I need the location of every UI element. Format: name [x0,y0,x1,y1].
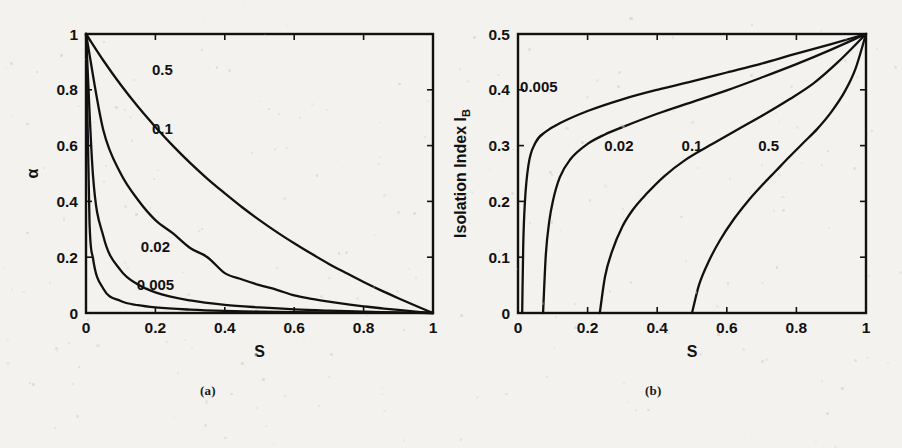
y-tick-label: 1 [69,26,78,43]
scan-speckle [805,80,807,82]
scan-speckle [466,80,469,83]
data-curve [600,34,866,313]
scan-speckle [629,17,632,20]
scan-speckle [574,303,575,304]
scan-speckle [265,425,267,427]
scan-speckle [424,136,426,138]
scan-speckle [99,187,100,188]
scan-speckle [647,409,650,412]
scan-speckle [224,437,227,440]
scan-speckle [550,221,553,224]
x-tick-label: 0 [82,319,91,336]
scan-speckle [72,383,74,385]
scan-speckle [177,372,179,374]
scan-speckle [729,178,731,180]
scan-speckle [256,407,258,409]
scan-speckle [373,286,374,287]
scan-speckle [29,382,31,384]
scan-speckle [191,348,192,349]
x-tick-label: 0 [514,319,523,336]
scan-speckle [379,156,382,159]
y-axis-label-text: Isolation Index I [452,117,469,238]
scan-speckle [396,290,399,293]
y-tick-label: 0.5 [488,26,510,43]
y-tick-label: 0.8 [56,81,78,98]
curve-label: 0.1 [682,137,703,154]
scan-speckle [328,376,330,378]
scan-speckle [124,205,126,207]
scan-speckle [204,424,207,427]
scan-speckle [695,291,698,294]
y-tick-label: 0 [501,305,510,322]
scan-speckle [286,147,288,149]
scan-speckle [138,98,140,100]
scan-speckle [153,178,155,180]
scan-speckle [356,297,358,299]
curve-label: 0.005 [137,276,175,293]
x-tick-label: 0.8 [786,319,808,336]
scan-speckle [546,376,548,378]
scan-speckle [623,382,625,384]
scan-speckle [697,167,699,169]
scan-speckle [212,309,213,310]
scan-speckle [691,121,694,124]
scan-speckle [560,230,562,232]
scan-speckle [403,439,406,442]
scan-speckle [36,71,38,73]
scan-speckle [68,342,70,344]
scan-speckle [171,72,173,74]
scan-speckle [635,409,638,412]
x-tick-label: 0.4 [646,319,668,336]
scan-speckle [198,230,199,231]
scan-speckle [283,197,286,200]
scan-speckle [801,162,803,164]
scan-speckle [667,332,669,334]
scan-speckle [78,366,80,368]
scan-speckle [103,41,105,43]
scan-speckle [790,85,793,88]
curve-label: 0.005 [520,78,558,95]
y-tick-label: 0.4 [488,81,510,98]
scan-speckle [254,354,256,356]
scan-speckle [761,282,763,284]
scan-speckle [866,357,868,359]
scan-speckle [415,277,417,279]
scan-speckle [251,152,253,154]
scan-speckle [765,358,768,361]
y-axis-label: Isolation Index IB [452,109,472,238]
scan-speckle [622,208,624,210]
y-axis-label: α [24,168,41,178]
scan-speckle [32,383,34,385]
y-tick-label: 0 [69,305,78,322]
scan-speckle [413,212,416,215]
panel-b: 00.20.40.60.8100.10.20.30.40.5SIsolation… [440,0,900,360]
scan-speckle [157,169,159,171]
scan-speckle [815,441,816,442]
data-curve [86,34,433,313]
scan-speckle [476,396,479,399]
scan-speckle [273,443,275,445]
scan-speckle [284,395,286,397]
x-tick-label: 0.4 [214,319,236,336]
x-tick-label: 1 [862,319,871,336]
scan-speckle [717,333,719,335]
scan-speckle [26,123,29,126]
scan-speckle [473,36,476,39]
scan-speckle [76,415,79,418]
scan-speckle [497,74,500,77]
scan-speckle [554,347,555,348]
scan-speckle [871,130,873,132]
x-tick-label: 1 [429,319,438,336]
scan-speckle [751,434,752,435]
scan-speckle [530,88,532,90]
scan-speckle [627,401,628,402]
curve-label: 0.02 [141,238,170,255]
scan-speckle [820,30,822,32]
scan-speckle [565,127,568,130]
curve-label: 0.5 [152,61,173,78]
data-curve [86,34,433,313]
scan-speckle [398,83,400,85]
scan-speckle [326,109,328,111]
y-axis-label-group: Isolation Index IB [452,109,472,238]
